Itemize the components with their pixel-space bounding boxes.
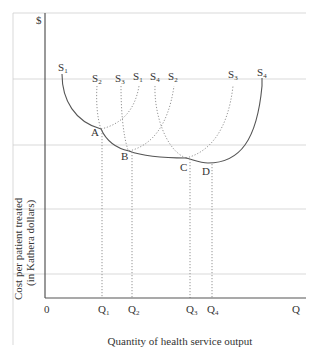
chart: $ 0 Q Cost per patient treated (in Kathe…	[0, 0, 316, 354]
x-tick-label: Q2	[128, 303, 140, 317]
curve-s2-right-branch	[129, 86, 174, 151]
y-axis-label: Cost per patient treated (in Kathera dol…	[12, 197, 37, 300]
point-labels: A B C D	[91, 126, 210, 177]
point-label-c: C	[180, 161, 187, 173]
y-axis-symbol: $	[36, 14, 42, 26]
curve-s1-right-branch	[101, 86, 139, 129]
curve-label: S2	[168, 70, 178, 84]
origin-label: 0	[44, 303, 50, 315]
gridlines	[13, 13, 306, 274]
x-tick-label: Q1	[98, 303, 110, 317]
curve-s4-left-branch	[155, 86, 186, 158]
curve-labels: S1 S2 S3 S1 S4 S2 S3 S4	[58, 61, 267, 86]
x-tick-labels: Q1 Q2 Q3 Q4	[98, 303, 219, 317]
x-axis-symbol: Q	[292, 303, 300, 315]
curve-s3-right-branch	[186, 86, 233, 158]
x-axis-label: Quantity of health service output	[108, 335, 253, 347]
drop-lines	[102, 130, 212, 298]
curve-label: S4	[150, 70, 160, 84]
point-label-d: D	[202, 165, 210, 177]
curve-label: S1	[58, 61, 68, 75]
envelope-curve	[62, 74, 262, 163]
point-label-b: B	[121, 150, 128, 162]
curve-label: S3	[115, 72, 125, 86]
curve-s2-left-branch	[97, 86, 101, 129]
point-label-a: A	[91, 126, 99, 138]
y-axis-label-line-2: (in Kathera dollars)	[24, 200, 37, 286]
curve-label: S2	[92, 72, 102, 86]
x-tick-label: Q3	[186, 303, 198, 317]
curve-label: S1	[133, 70, 143, 84]
y-axis-label-line-1: Cost per patient treated	[12, 197, 24, 300]
curve-label: S4	[257, 66, 267, 80]
curve-label: S3	[228, 68, 238, 82]
x-tick-label: Q4	[207, 303, 219, 317]
curve-s3-left-branch	[121, 86, 128, 150]
